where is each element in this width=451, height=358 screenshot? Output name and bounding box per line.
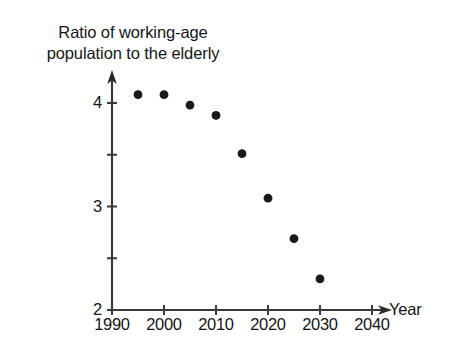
y-tick-label: 4 [80,94,102,111]
tick-marks [107,103,372,315]
chart-figure: Ratio of working-age population to the e… [0,0,451,358]
x-tick-label: 2010 [190,316,242,333]
data-point [316,275,325,284]
x-tick-label: 2030 [294,316,346,333]
x-tick-label: 1990 [86,316,138,333]
data-point [264,194,273,203]
axes [107,70,392,315]
data-point [212,111,221,120]
x-axis-label: Year [389,301,422,318]
y-tick-label: 3 [80,198,102,215]
data-point [160,90,169,99]
data-point [134,90,143,99]
x-tick-label: 2000 [138,316,190,333]
data-point [238,149,247,158]
x-tick-label: 2020 [242,316,294,333]
data-point [290,234,299,243]
x-tick-label: 2040 [346,316,398,333]
data-point [186,101,195,110]
data-points [134,90,325,283]
plot-area [0,0,451,358]
